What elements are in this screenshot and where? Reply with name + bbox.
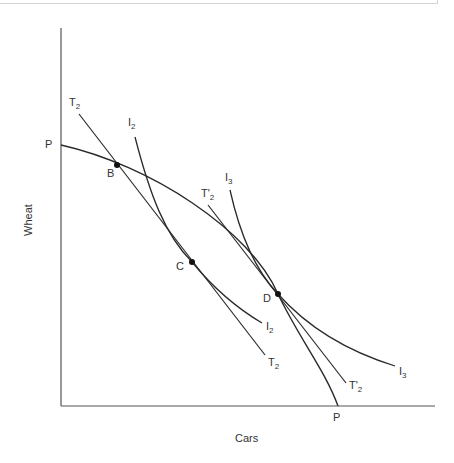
diagram-canvas bbox=[0, 0, 454, 463]
point-c bbox=[189, 259, 195, 265]
ppf-curve bbox=[61, 145, 338, 406]
label-t2-bottom-sub: 2 bbox=[275, 362, 279, 371]
label-point-d: D bbox=[263, 293, 271, 304]
label-i3-top: I3 bbox=[225, 172, 233, 186]
point-b bbox=[114, 162, 120, 168]
label-i2-top-sub: 2 bbox=[131, 122, 135, 131]
label-i3-bottom-sub: 3 bbox=[402, 371, 406, 380]
label-p-bottom: P bbox=[333, 412, 340, 423]
label-t2-bottom-main: T bbox=[268, 356, 275, 368]
label-p-top: P bbox=[45, 139, 52, 150]
x-axis-title: Cars bbox=[235, 432, 258, 444]
label-t2prime-bottom-sub: 2 bbox=[358, 385, 362, 394]
label-t2prime-top-main: T' bbox=[201, 187, 210, 199]
label-i2-top: I2 bbox=[128, 117, 136, 131]
label-i3-top-sub: 3 bbox=[228, 177, 232, 186]
label-t2-bottom: T2 bbox=[268, 357, 279, 371]
t2-line bbox=[79, 114, 265, 355]
label-t2prime-bottom: T'2 bbox=[349, 380, 362, 394]
label-i2-bottom-sub: 2 bbox=[269, 326, 273, 335]
i2-curve bbox=[135, 137, 262, 323]
label-i3-bottom: I3 bbox=[399, 366, 407, 380]
y-axis-title: Wheat bbox=[22, 200, 34, 240]
label-t2-top: T2 bbox=[69, 97, 80, 111]
label-i2-bottom: I2 bbox=[266, 321, 274, 335]
label-t2-top-sub: 2 bbox=[76, 102, 80, 111]
point-d bbox=[275, 291, 281, 297]
label-point-c: C bbox=[176, 261, 184, 272]
label-t2prime-bottom-main: T' bbox=[349, 379, 358, 391]
label-t2prime-top-sub: 2 bbox=[210, 193, 214, 202]
label-t2-top-main: T bbox=[69, 96, 76, 108]
label-point-b: B bbox=[107, 168, 114, 179]
label-t2prime-top: T'2 bbox=[201, 188, 214, 202]
